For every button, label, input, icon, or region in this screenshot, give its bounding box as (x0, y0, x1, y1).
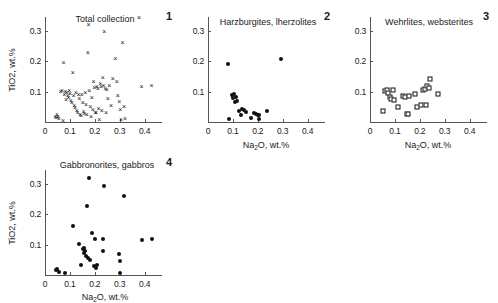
data-point (120, 40, 126, 46)
data-point (96, 117, 102, 123)
x-tick (395, 119, 396, 122)
x-tick (95, 272, 96, 275)
data-point (139, 84, 145, 90)
data-point (60, 118, 66, 124)
y-tick (45, 245, 48, 246)
x-axis-title: Na2O, wt.% (82, 292, 129, 302)
data-point (87, 176, 91, 180)
x-tick (70, 119, 71, 122)
data-point (118, 271, 122, 275)
data-point (118, 259, 122, 263)
data-point (227, 117, 231, 121)
data-point (112, 56, 118, 62)
x-tick-label: 0.3 (277, 126, 288, 136)
data-point (244, 110, 248, 114)
data-point (427, 77, 432, 82)
x-tick (45, 119, 46, 122)
panel-number: 2 (324, 10, 330, 22)
data-point (265, 109, 269, 113)
data-point (150, 237, 154, 241)
data-point (88, 258, 92, 262)
x-tick-label: 0.1 (389, 126, 400, 136)
data-point (117, 252, 121, 256)
y-axis-line (370, 17, 371, 122)
data-point (234, 95, 238, 99)
x-tick-label: 0.2 (414, 126, 425, 136)
panel-title: Total collection (75, 14, 134, 24)
y-tick (45, 92, 48, 93)
data-point (149, 83, 155, 89)
panel-number: 3 (483, 10, 489, 22)
y-axis-line (45, 17, 46, 122)
y-axis-title: TiO2, wt.% (7, 48, 17, 92)
data-point (103, 110, 109, 116)
x-axis-title: Na2O, wt.% (243, 140, 290, 150)
x-tick (145, 119, 146, 122)
data-point (100, 75, 106, 81)
data-point (70, 70, 76, 76)
x-tick (233, 119, 234, 122)
y-tick (370, 61, 373, 62)
x-tick-label: 0.3 (439, 126, 450, 136)
y-tick-label: 0.3 (19, 179, 41, 189)
y-tick (370, 92, 373, 93)
y-tick (208, 92, 211, 93)
y-tick-label: 0.1 (344, 87, 366, 97)
data-point (381, 109, 386, 114)
x-tick-label: 0.4 (464, 126, 475, 136)
data-point (85, 50, 91, 56)
y-tick-label: 0.3 (19, 26, 41, 36)
data-point (226, 62, 230, 66)
x-tick-label: 0.2 (89, 279, 100, 289)
data-point (395, 104, 400, 109)
data-point (77, 242, 81, 246)
y-axis-line (45, 170, 46, 275)
y-tick-label: 0.2 (182, 56, 204, 66)
data-point (140, 238, 144, 242)
x-tick (208, 119, 209, 122)
y-axis-title: TiO2, wt.% (7, 201, 17, 245)
y-tick (45, 31, 48, 32)
data-point (61, 60, 67, 66)
data-point (101, 249, 105, 253)
x-tick-label: 0.2 (89, 126, 100, 136)
x-tick (308, 119, 309, 122)
x-tick-label: 0.3 (114, 126, 125, 136)
x-tick (283, 119, 284, 122)
data-point (83, 249, 87, 253)
x-tick (370, 119, 371, 122)
data-point (249, 116, 253, 120)
y-tick-label: 0.3 (182, 26, 204, 36)
y-tick-label: 0.1 (19, 87, 41, 97)
x-tick-label: 0.2 (252, 126, 263, 136)
data-point (57, 270, 61, 274)
panel-number: 4 (166, 156, 172, 168)
data-point (95, 263, 99, 267)
y-tick-label: 0.2 (344, 56, 366, 66)
x-tick-label: 0 (43, 279, 48, 289)
data-point (413, 91, 418, 96)
x-tick (70, 272, 71, 275)
data-point (71, 224, 75, 228)
data-point (122, 194, 126, 198)
x-axis-line (208, 122, 325, 123)
y-tick (208, 31, 211, 32)
data-point (121, 104, 127, 110)
y-axis-line (208, 17, 209, 122)
panel-number: 1 (166, 10, 172, 22)
data-point (235, 99, 239, 103)
data-point (106, 83, 112, 89)
legend-marker-cross (136, 15, 142, 21)
x-tick-label: 0 (206, 126, 211, 136)
panel-title: Harzburgites, lherzolites (220, 17, 317, 27)
x-tick (445, 119, 446, 122)
y-tick (208, 61, 211, 62)
data-point (405, 112, 410, 117)
x-tick-label: 0.4 (139, 126, 150, 136)
data-point (279, 57, 283, 61)
data-point (407, 94, 412, 99)
data-point (114, 79, 120, 85)
y-tick (370, 31, 373, 32)
x-tick-label: 0.4 (302, 126, 313, 136)
data-point (423, 103, 428, 108)
